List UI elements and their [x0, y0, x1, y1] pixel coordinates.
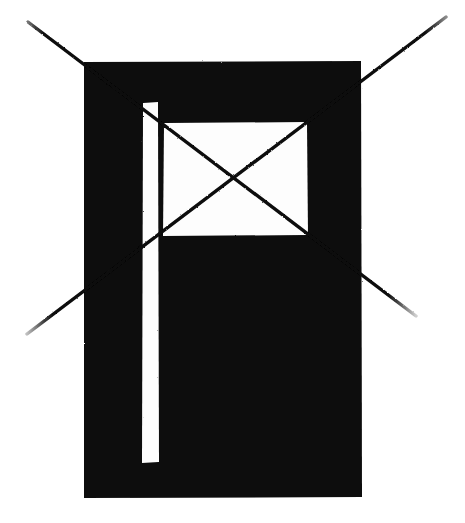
figure-svg: [0, 0, 465, 523]
flag-pole-stripe: [142, 102, 159, 463]
figure-canvas: Crossed-out flag glyph A solid black rec…: [0, 0, 465, 523]
